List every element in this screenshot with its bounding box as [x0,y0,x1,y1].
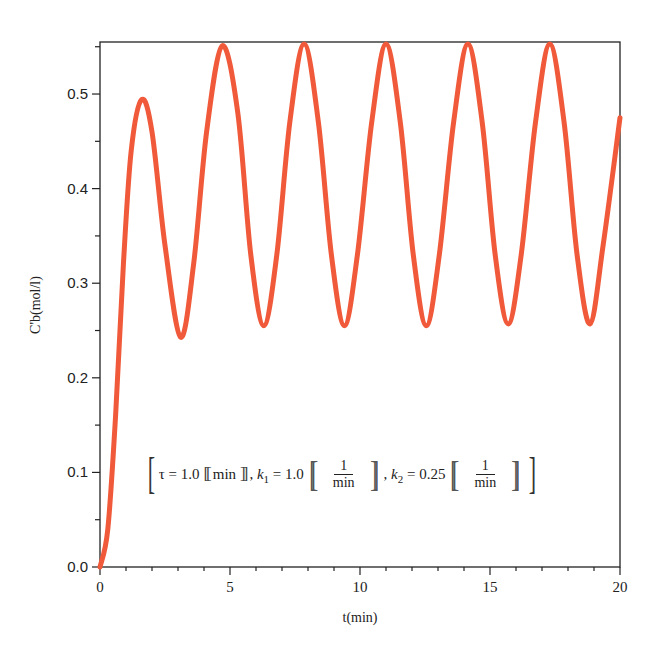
k1-unit-denominator: min [327,475,361,491]
k1-unit-numerator: 1 [334,458,353,475]
open-bracket: [ [148,452,155,496]
close-bracket: ] [529,452,536,496]
unit-bracket-close: ]] [240,464,245,484]
y-axis: 0.00.10.20.30.40.5 [67,47,100,575]
k1-subscript: 1 [264,473,270,485]
y-axis-label: C'b(mol/l) [28,276,44,334]
y-tick-label: 0.3 [67,274,88,291]
x-tick-label: 15 [483,579,498,595]
separator: , [249,466,253,483]
unit-bracket-close: ]] [511,453,515,495]
k2-unit-denominator: min [468,475,502,491]
x-tick-label: 0 [96,579,104,595]
unit-bracket-open: [[ [203,464,208,484]
k2-subscript: 2 [398,473,404,485]
tau-unit: min [213,466,236,483]
separator: , [384,466,388,483]
k1-symbol: k [257,466,264,483]
y-tick-label: 0.0 [67,558,88,575]
y-tick-label: 0.1 [67,463,88,480]
unit-bracket-open: [[ [451,453,455,495]
k2-symbol: k [391,466,398,483]
x-axis: 05101520 [96,567,627,595]
x-tick-label: 20 [613,579,628,595]
x-tick-label: 5 [226,579,234,595]
x-tick-label: 10 [353,579,368,595]
k2-value: = 0.25 [407,466,445,483]
k1-value: = 1.0 [273,466,304,483]
line-chart: 0.00.10.20.30.40.5 05101520 t(min) C'b(m… [0,0,657,670]
x-axis-label: t(min) [343,610,378,626]
k2-unit-numerator: 1 [476,458,495,475]
y-tick-label: 0.4 [67,180,88,197]
y-tick-label: 0.2 [67,369,88,386]
parameter-annotation: [ τ = 1.0 [[ min ]] , k1 = 1.0 [[ 1 min … [144,448,540,500]
k1-unit-fraction: 1 min [327,458,361,491]
tau-label: τ = 1.0 [159,466,200,483]
y-tick-label: 0.5 [67,85,88,102]
unit-bracket-open: [[ [309,453,313,495]
unit-bracket-close: ]] [370,453,374,495]
k2-unit-fraction: 1 min [468,458,502,491]
